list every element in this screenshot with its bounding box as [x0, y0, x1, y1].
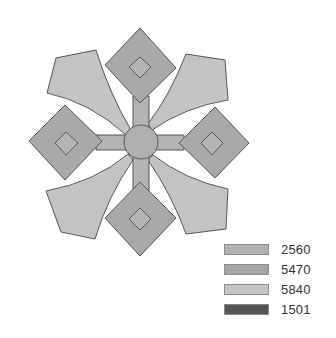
legend-item: 5470: [224, 259, 311, 279]
legend-label: 5470: [281, 262, 311, 277]
legend-item: 1501: [224, 299, 311, 319]
legend-label: 1501: [281, 302, 311, 317]
legend: 2560 5470 5840 1501: [224, 239, 311, 319]
legend-item: 5840: [224, 279, 311, 299]
legend-swatch: [224, 244, 269, 255]
legend-swatch: [224, 264, 269, 275]
legend-item: 2560: [224, 239, 311, 259]
central-hub: [124, 125, 158, 159]
legend-swatch: [224, 304, 269, 315]
legend-label: 5840: [281, 282, 311, 297]
legend-swatch: [224, 284, 269, 295]
legend-label: 2560: [281, 242, 311, 257]
